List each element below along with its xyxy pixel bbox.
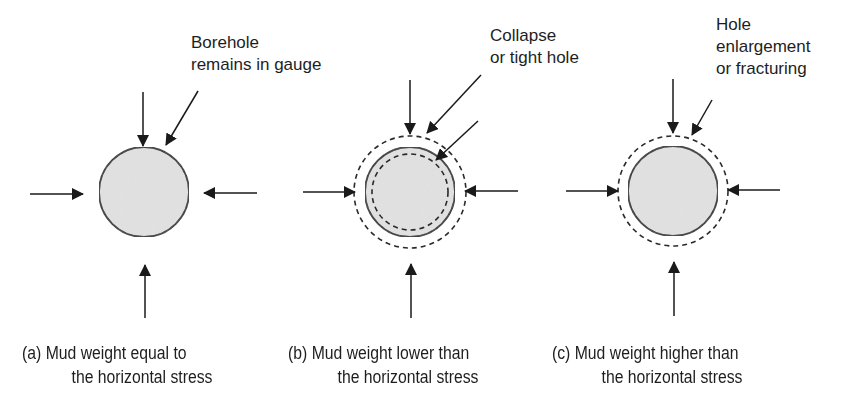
caption-b-line2: the horizontal stress: [288, 365, 478, 389]
caption-a: (a) Mud weight equal to the horizontal s…: [22, 341, 212, 389]
callout-pointer-outer-b: [427, 75, 481, 133]
callout-pointer-c: [692, 100, 712, 135]
panel-a: [30, 91, 257, 318]
panel-b: [303, 75, 518, 318]
caption-b-line1: (b) Mud weight lower than: [288, 343, 469, 363]
caption-a-line1: (a) Mud weight equal to: [22, 343, 187, 363]
borehole-wall-c: [628, 146, 718, 236]
callout-a-line2: remains in gauge: [191, 54, 321, 76]
callout-a-line1: Borehole: [191, 32, 321, 54]
borehole-wall-a: [99, 147, 189, 237]
caption-c-line2: the horizontal stress: [552, 365, 742, 389]
callout-c-line3: or fracturing: [716, 58, 811, 80]
caption-c-line1: (c) Mud weight higher than: [552, 343, 738, 363]
callout-c-line1: Hole: [716, 14, 811, 36]
caption-c: (c) Mud weight higher than the horizonta…: [552, 341, 742, 389]
callout-label-b: Collapse or tight hole: [490, 25, 579, 69]
callout-b-line2: or tight hole: [490, 47, 579, 69]
callout-label-a: Borehole remains in gauge: [191, 32, 321, 76]
borehole-wall-b: [365, 147, 455, 237]
caption-b: (b) Mud weight lower than the horizontal…: [288, 341, 478, 389]
callout-c-line2: enlargement: [716, 36, 811, 58]
caption-a-line2: the horizontal stress: [22, 365, 212, 389]
callout-b-line1: Collapse: [490, 25, 579, 47]
callout-pointer-a: [166, 91, 198, 145]
callout-label-c: Hole enlargement or fracturing: [716, 14, 811, 80]
panel-c: [566, 79, 780, 316]
callout-pointer-inner-b: [436, 121, 478, 160]
